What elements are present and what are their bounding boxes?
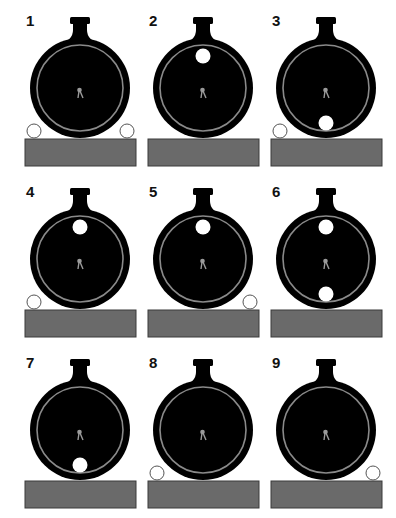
panel-2: 2	[123, 0, 247, 171]
base-block	[148, 139, 259, 166]
panel-6: 6	[246, 171, 370, 342]
flask-lip	[70, 359, 90, 366]
ball-outside-left	[27, 295, 41, 309]
pivot-dot	[200, 88, 205, 93]
pivot-dot	[200, 430, 205, 435]
base-block	[25, 481, 136, 508]
flask-diagram	[123, 342, 263, 513]
panel-9: 9	[246, 342, 370, 513]
pivot-dot	[200, 259, 205, 264]
flask-lip	[70, 17, 90, 24]
pivot-dot	[77, 430, 82, 435]
pivot-dot	[323, 430, 328, 435]
ball-outside-left	[27, 124, 41, 138]
panel-1: 1	[0, 0, 124, 171]
flask-lip	[193, 17, 213, 24]
ball-outside-left	[273, 124, 287, 138]
panel-7: 7	[0, 342, 124, 513]
base-block	[148, 310, 259, 337]
flask-lip	[316, 17, 336, 24]
ball-inside-bottom	[73, 458, 88, 473]
ball-inside-top	[196, 220, 211, 235]
ball-outside-right	[366, 466, 380, 480]
base-block	[271, 481, 382, 508]
panel-4: 4	[0, 171, 124, 342]
flask-lip	[316, 359, 336, 366]
ball-outside-left	[150, 466, 164, 480]
panel-8: 8	[123, 342, 247, 513]
ball-inside-bottom	[319, 116, 334, 131]
pivot-dot	[77, 88, 82, 93]
flask-lip	[70, 188, 90, 195]
pivot-dot	[323, 259, 328, 264]
flask-lip	[193, 359, 213, 366]
panel-3: 3	[246, 0, 370, 171]
panel-5: 5	[123, 171, 247, 342]
ball-inside-top	[319, 220, 334, 235]
pivot-dot	[77, 259, 82, 264]
ball-inside-top	[73, 220, 88, 235]
flask-diagram	[246, 171, 386, 342]
flask-diagram	[123, 171, 263, 342]
flask-diagram	[0, 0, 140, 171]
flask-lip	[316, 188, 336, 195]
pivot-dot	[323, 88, 328, 93]
base-block	[148, 481, 259, 508]
flask-diagram	[0, 342, 140, 513]
ball-inside-bottom	[319, 287, 334, 302]
flask-lip	[193, 188, 213, 195]
base-block	[25, 310, 136, 337]
flask-diagram	[246, 342, 386, 513]
flask-diagram	[123, 0, 263, 171]
base-block	[25, 139, 136, 166]
ball-inside-top	[196, 49, 211, 64]
base-block	[271, 310, 382, 337]
flask-diagram	[0, 171, 140, 342]
flask-diagram	[246, 0, 386, 171]
base-block	[271, 139, 382, 166]
